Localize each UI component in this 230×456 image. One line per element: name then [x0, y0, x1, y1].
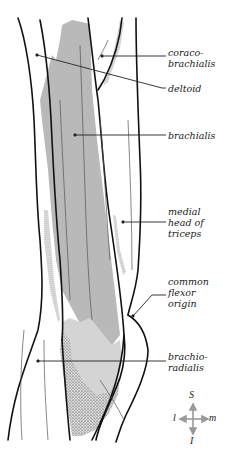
label-brachialis: brachialis: [168, 130, 215, 141]
compass-inferior-label: I: [190, 435, 193, 446]
compass-arrows: [180, 404, 208, 434]
label-common-flexor-origin: common flexor origin: [168, 276, 209, 309]
label-deltoid: deltoid: [168, 83, 201, 94]
compass-superior-label: S: [189, 389, 194, 400]
label-medial-head-of-triceps: medial head of triceps: [168, 206, 204, 239]
compass-medial-label: m: [209, 412, 216, 423]
label-brachioradialis: brachio- radialis: [168, 351, 208, 373]
medial-lower-outline: [116, 315, 148, 442]
lateral-outline: [8, 18, 42, 440]
leader-common-flexor: [133, 295, 166, 316]
label-coracobrachialis: coraco- brachialis: [168, 47, 215, 69]
compass-lateral-label: l: [173, 412, 176, 423]
right-edge-stipple: [113, 215, 126, 275]
